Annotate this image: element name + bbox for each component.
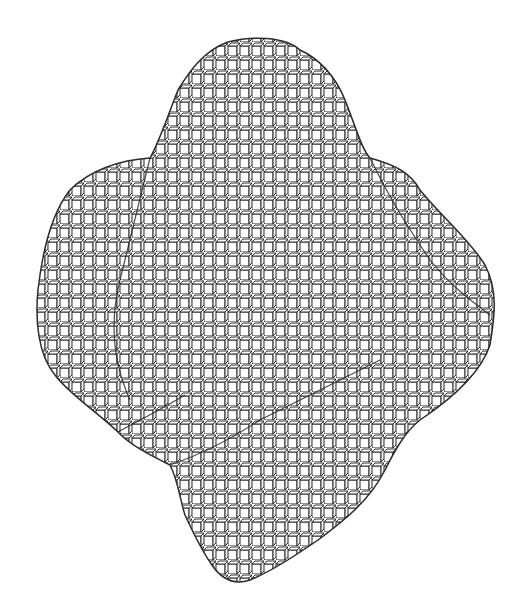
- voxel-body: [0, 0, 529, 602]
- figure-canvas: [0, 0, 529, 602]
- voxel-shape: [0, 0, 529, 602]
